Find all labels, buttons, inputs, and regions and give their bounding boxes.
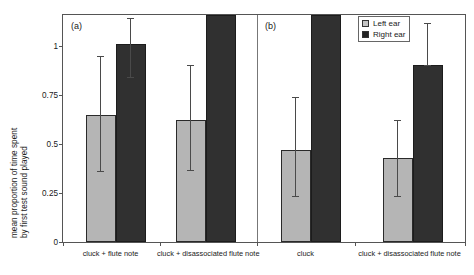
y-tick-label-1: 1 xyxy=(28,43,58,51)
x-tickmark-4 xyxy=(465,242,466,246)
errorbar-line-a2-left-ear xyxy=(190,65,191,170)
bar-a2-right-ear xyxy=(206,15,236,242)
y-tick-label-025: 0.25 xyxy=(28,190,58,198)
bar-a1-right-ear xyxy=(116,44,146,242)
errorbar-cap-top-b2-left-ear xyxy=(394,120,401,121)
errorbar-line-a1-right-ear xyxy=(130,18,131,77)
errorbar-line-b2-left-ear xyxy=(397,120,398,196)
panel-label-a: (a) xyxy=(71,21,82,31)
panel-divider xyxy=(257,15,258,242)
legend-label-right-ear: Right ear xyxy=(373,30,405,39)
x-tick-label-b1: cluck xyxy=(258,249,353,258)
errorbar-cap-bottom-a2-left-ear xyxy=(187,170,194,171)
errorbar-cap-bottom-b1-left-ear xyxy=(292,196,299,197)
errorbar-cap-top-b2-right-ear xyxy=(424,23,431,24)
y-tick-label-0: 0 xyxy=(28,239,58,247)
errorbar-line-b2-right-ear xyxy=(427,23,428,65)
errorbar-cap-top-a1-left-ear xyxy=(97,56,104,57)
bar-a2-left-ear xyxy=(176,120,206,242)
x-tick-label-a1: cluck + flute note xyxy=(62,249,159,258)
y-tick-label-05: 0.5 xyxy=(28,141,58,149)
legend-item-left-ear: Left ear xyxy=(362,19,405,28)
errorbar-cap-bottom-b2-left-ear xyxy=(394,196,401,197)
y-tickmark-075 xyxy=(59,95,63,96)
errorbar-cap-bottom-a1-right-ear xyxy=(127,77,134,78)
y-axis-title: mean proportion of time spent by first t… xyxy=(0,0,30,250)
y-axis-tick-labels: 0 0.25 0.5 0.75 1 xyxy=(28,0,58,250)
figure-panel-chart: mean proportion of time spent by first t… xyxy=(0,0,474,275)
x-tickmark-1 xyxy=(160,242,161,246)
errorbar-cap-bottom-a1-left-ear xyxy=(97,171,104,172)
x-tickmark-2 xyxy=(257,242,258,246)
errorbar-cap-top-b1-left-ear xyxy=(292,97,299,98)
errorbar-cap-top-a1-right-ear xyxy=(127,18,134,19)
panel-label-b: (b) xyxy=(265,21,276,31)
y-tickmark-025 xyxy=(59,193,63,194)
legend: Left ear Right ear xyxy=(358,16,410,42)
legend-label-left-ear: Left ear xyxy=(373,19,400,28)
y-tickmark-05 xyxy=(59,144,63,145)
errorbar-line-a1-left-ear xyxy=(100,56,101,171)
y-tick-label-075: 0.75 xyxy=(28,92,58,100)
x-tick-label-a2: cluck + disassociated flute note xyxy=(157,249,257,258)
y-axis-title-line1: mean proportion of time spent xyxy=(10,128,20,238)
bar-b2-left-ear xyxy=(383,158,413,242)
errorbar-line-b1-left-ear xyxy=(295,97,296,196)
x-tickmark-0 xyxy=(63,242,64,246)
errorbar-cap-top-a2-left-ear xyxy=(187,65,194,66)
y-tickmark-1 xyxy=(59,46,63,47)
legend-item-right-ear: Right ear xyxy=(362,30,405,39)
plot-area: (a) (b) xyxy=(62,14,466,243)
errorbar-cap-bottom-b2-right-ear xyxy=(424,65,431,66)
bar-b1-right-ear xyxy=(311,15,341,242)
bar-b2-right-ear xyxy=(413,65,443,242)
legend-swatch-right-ear xyxy=(362,31,369,38)
legend-swatch-left-ear xyxy=(362,20,369,27)
x-tickmark-3 xyxy=(355,242,356,246)
bar-a1-left-ear xyxy=(86,115,116,242)
x-tick-label-b2: cluck + disassociated flute note xyxy=(353,249,466,258)
